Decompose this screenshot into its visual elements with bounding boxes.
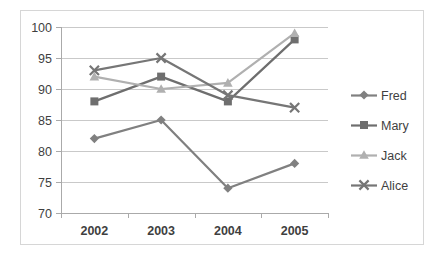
x-axis-tick-label: 2002 xyxy=(80,224,108,238)
data-point-fred-2005 xyxy=(290,159,299,168)
legend-label-fred: Fred xyxy=(381,89,407,103)
data-point-legend-fred xyxy=(359,90,368,99)
chart-frame: 1009590858075702002200320042005FredMaryJ… xyxy=(20,10,424,245)
y-axis-tick-label: 90 xyxy=(38,83,52,97)
series-line-mary xyxy=(94,39,294,101)
data-point-mary-2002 xyxy=(90,97,98,105)
legend-label-jack: Jack xyxy=(381,149,407,163)
data-point-jack-2005 xyxy=(290,28,300,37)
x-axis-tick-label: 2004 xyxy=(214,224,242,238)
legend-entry-alice[interactable]: Alice xyxy=(351,179,408,193)
line-chart: 1009590858075702002200320042005FredMaryJ… xyxy=(21,11,423,244)
legend-entry-fred[interactable]: Fred xyxy=(351,89,407,103)
legend-label-alice: Alice xyxy=(381,179,408,193)
y-axis-tick-label: 100 xyxy=(31,21,52,35)
x-axis-tick-label: 2003 xyxy=(147,224,175,238)
legend-entry-mary[interactable]: Mary xyxy=(351,119,410,133)
y-axis-tick-label: 95 xyxy=(38,52,52,66)
series-line-jack xyxy=(94,33,294,89)
y-axis-tick-label: 70 xyxy=(38,207,52,221)
y-axis-tick-label: 85 xyxy=(38,114,52,128)
y-axis-tick-label: 80 xyxy=(38,145,52,159)
x-axis-tick-label: 2005 xyxy=(281,224,309,238)
data-point-fred-2002 xyxy=(90,134,99,143)
data-point-mary-2003 xyxy=(157,73,165,81)
data-point-legend-mary xyxy=(360,121,368,129)
legend-label-mary: Mary xyxy=(381,119,410,133)
legend-entry-jack[interactable]: Jack xyxy=(351,149,407,163)
y-axis-tick-label: 75 xyxy=(38,176,52,190)
series-line-fred xyxy=(94,120,294,188)
